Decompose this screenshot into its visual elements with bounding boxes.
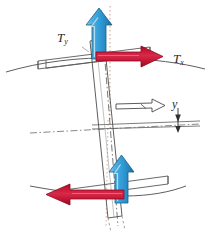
label-force-tx: Tx — [173, 52, 184, 67]
leader-line-ty — [82, 47, 89, 52]
label-force-ty: Ty — [57, 31, 68, 46]
diagram-svg — [0, 0, 222, 236]
pile-bottom-dashed-extensions — [108, 216, 125, 232]
label-ty-subscript: y — [64, 37, 68, 46]
dimension-arrow-y — [175, 108, 181, 133]
force-arrow-ty-top — [86, 8, 112, 59]
figure-canvas: Ty Tx y — [0, 0, 222, 236]
label-y-symbol: y — [172, 97, 177, 111]
label-dimension-y: y — [172, 98, 177, 110]
label-tx-subscript: x — [180, 58, 184, 67]
displacement-arrow-hollow — [116, 99, 165, 112]
